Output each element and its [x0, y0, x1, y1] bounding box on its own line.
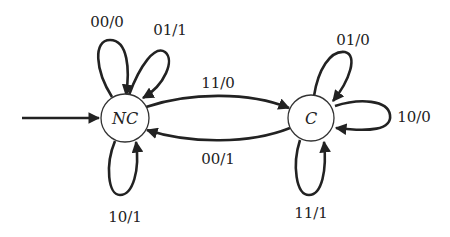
- state-c-label: C: [305, 109, 317, 128]
- edge-c-to-nc: [147, 128, 290, 140]
- label-nc-c-11-0: 11/0: [201, 74, 235, 92]
- state-c: C: [288, 95, 334, 141]
- loop-c-10-0: [335, 101, 390, 129]
- state-nc-label: NC: [111, 109, 138, 128]
- state-diagram: NC C 00/0 01/1 10/1 11/0 00/1 01/0 10/0 …: [0, 0, 450, 237]
- edge-nc-to-c: [146, 96, 289, 108]
- label-c-nc-00-1: 00/1: [201, 150, 235, 168]
- loop-nc-10-1: [109, 141, 137, 195]
- label-c-01-0: 01/0: [336, 31, 370, 49]
- loop-nc-01-1: [129, 51, 169, 98]
- label-nc-01-1: 01/1: [153, 21, 187, 39]
- label-nc-10-1: 10/1: [108, 208, 142, 226]
- label-nc-00-0: 00/0: [90, 13, 124, 31]
- label-c-10-0: 10/0: [397, 108, 431, 126]
- loop-c-11-1: [296, 140, 325, 195]
- loop-c-01-0: [314, 52, 351, 101]
- state-nc: NC: [101, 94, 149, 142]
- loop-nc-00-0: [98, 40, 128, 97]
- label-c-11-1: 11/1: [294, 204, 328, 222]
